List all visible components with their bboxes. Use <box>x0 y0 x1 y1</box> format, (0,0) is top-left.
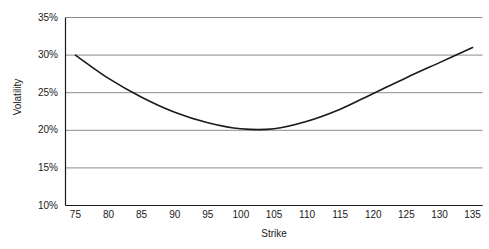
axis-lines <box>66 18 483 206</box>
volatility-curve <box>75 48 472 130</box>
volatility-smile-chart: Volatility 10%15%20%25%30%35% 7580859095… <box>0 0 489 249</box>
gridlines <box>66 18 483 206</box>
plot-area <box>0 0 489 249</box>
